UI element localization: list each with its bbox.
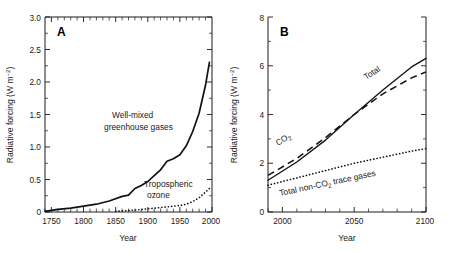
- panel-b-xaxis-title: Year: [338, 233, 356, 243]
- annotation-co2-pre: CO: [274, 132, 290, 147]
- annotation-trace-pre: Total non-CO: [278, 178, 329, 198]
- panel-a: 0 0.5 1.0 1.5 2.0 2.5 3.0 1750 1800 1850…: [0, 0, 226, 254]
- panel-b-y-major-ticks: [268, 17, 273, 212]
- annotation-ozone-line2: ozone: [147, 190, 170, 200]
- svg-text:Radiative forcing (W m−2): Radiative forcing (W m−2): [229, 67, 239, 164]
- annotation-ozone-line1: Tropospheric: [144, 179, 193, 189]
- panel-b-xtick-2100: 2100: [416, 216, 435, 226]
- panel-a-top-ticks: [51, 17, 205, 22]
- annotation-ghg-line1: Well-mixed: [112, 110, 154, 120]
- panel-a-letter: A: [57, 25, 66, 39]
- svg-text:Total non-CO2 trace gases: Total non-CO2 trace gases: [278, 168, 377, 199]
- panel-b-ytick-6: 6: [259, 61, 264, 71]
- panel-a-xtick-1850: 1850: [106, 216, 125, 226]
- figure-container: 0 0.5 1.0 1.5 2.0 2.5 3.0 1750 1800 1850…: [0, 0, 453, 254]
- panel-a-xtick-1900: 1900: [139, 216, 158, 226]
- panel-b-ytick-0: 0: [259, 207, 264, 217]
- panel-a-ytick-1-0: 1.0: [29, 142, 41, 152]
- panel-b-ytick-4: 4: [259, 110, 264, 120]
- panel-a-yaxis-title-tail: ): [5, 67, 15, 70]
- panel-b-letter: B: [280, 25, 289, 39]
- svg-text:CO2: CO2: [274, 130, 294, 148]
- annotation-trace-post: trace gases: [330, 168, 377, 187]
- panel-a-yaxis-title: Radiative forcing (W m−2): [5, 67, 15, 164]
- panel-a-ytick-0: 0: [36, 207, 41, 217]
- panel-b-ytick-2: 2: [259, 158, 264, 168]
- panel-a-ytick-3-0: 3.0: [29, 13, 41, 23]
- annotation-trace-gases: Total non-CO2 trace gases: [278, 168, 377, 199]
- panel-a-ytick-1-5: 1.5: [29, 110, 41, 120]
- panel-a-y-major-ticks: [45, 17, 50, 212]
- panel-b-yaxis-title: Radiative forcing (W m−2): [229, 67, 239, 164]
- panel-a-xtick-1950: 1950: [171, 216, 190, 226]
- panel-a-xtick-2000: 2000: [202, 216, 221, 226]
- panel-a-right-ticks: [207, 17, 212, 212]
- panel-b-xtick-2050: 2050: [345, 216, 364, 226]
- series-co2: [268, 72, 426, 175]
- panel-b-yaxis-title-main: Radiative forcing (W m: [229, 76, 239, 163]
- annotation-ghg-line2: greenhouse gases: [104, 122, 173, 132]
- panel-a-ytick-2-5: 2.5: [29, 45, 41, 55]
- panel-b-x-minor-ticks: [268, 209, 412, 212]
- panel-a-xaxis-title: Year: [119, 233, 137, 243]
- panel-b-xtick-2000: 2000: [273, 216, 292, 226]
- panel-b-yaxis-title-tail: ): [229, 67, 239, 70]
- panel-a-ytick-0-5: 0.5: [29, 175, 41, 185]
- panel-a-xtick-1800: 1800: [74, 216, 93, 226]
- panel-a-yaxis-title-main: Radiative forcing (W m: [5, 76, 15, 163]
- panel-b-x-major-ticks: [282, 207, 426, 212]
- panel-b: 0 2 4 6 8 2000 2050 2100 Year Radiative …: [226, 0, 453, 254]
- svg-text:Radiative forcing (W m−2): Radiative forcing (W m−2): [5, 67, 15, 164]
- panel-a-ytick-2-0: 2.0: [29, 77, 41, 87]
- panel-a-svg: 0 0.5 1.0 1.5 2.0 2.5 3.0 1750 1800 1850…: [0, 0, 226, 254]
- panel-b-right-ticks: [421, 17, 426, 212]
- annotation-total: Total: [362, 64, 382, 82]
- panel-b-svg: 0 2 4 6 8 2000 2050 2100 Year Radiative …: [226, 0, 453, 254]
- panel-a-xtick-1750: 1750: [42, 216, 61, 226]
- annotation-total-text: Total: [362, 64, 382, 82]
- panel-b-ytick-8: 8: [259, 13, 264, 23]
- annotation-co2: CO2: [274, 130, 294, 148]
